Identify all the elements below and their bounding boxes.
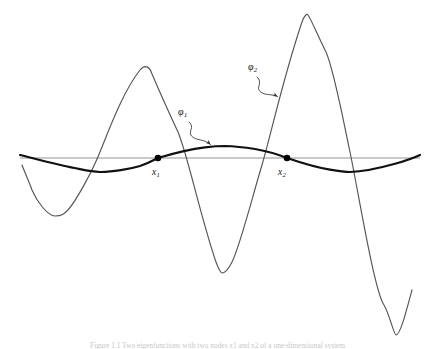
- node-marker-x1: [155, 155, 162, 162]
- curve-phi2: [22, 14, 412, 335]
- label-x-1: x1: [152, 168, 160, 179]
- phi2-annotation-arrow: [257, 77, 278, 97]
- eigenfunction-figure: φ1 φ2 x1 x2 Figure 1.1 Two eigenfunction…: [0, 0, 437, 349]
- figure-caption: Figure 1.1 Two eigenfunctions with two n…: [0, 341, 437, 349]
- node-marker-x2: [284, 155, 291, 162]
- curve-phi1: [20, 146, 420, 172]
- label-phi-1: φ1: [178, 107, 187, 119]
- phi-2-subscript: 2: [254, 66, 258, 74]
- label-phi-2: φ2: [248, 62, 257, 74]
- x-1-subscript: 1: [156, 171, 159, 178]
- plot-canvas: [0, 0, 437, 349]
- phi-1-symbol: φ: [178, 106, 184, 117]
- phi1-annotation-arrow: [189, 122, 211, 145]
- phi-1-subscript: 1: [184, 111, 188, 119]
- label-x-2: x2: [278, 168, 286, 179]
- x-2-subscript: 2: [282, 171, 285, 178]
- phi-2-symbol: φ: [248, 61, 254, 72]
